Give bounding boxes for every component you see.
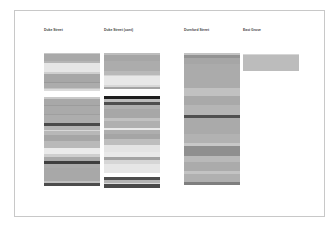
stripe-block (44, 53, 100, 91)
stripe-band (104, 121, 160, 128)
stripe-band (44, 168, 100, 181)
stripe-block (104, 53, 160, 89)
stripe-band (44, 54, 100, 61)
stripe-band (44, 183, 100, 186)
stripe-band (184, 162, 240, 171)
stripe-band (184, 182, 240, 185)
stripe-band (44, 141, 100, 148)
stripe-block (104, 177, 160, 188)
column-heading: Duke Street (44, 28, 63, 32)
stripe-band (184, 88, 240, 96)
stripe-band (104, 76, 160, 85)
stripe-band (104, 109, 160, 118)
stripe-band (104, 145, 160, 152)
stripe-block (184, 53, 240, 185)
stripe-band (44, 74, 100, 82)
stripe-band (184, 174, 240, 182)
stripe-band (184, 64, 240, 88)
stripe-band (44, 63, 100, 72)
column-heading: East Grove (243, 28, 261, 32)
stripe-band (184, 134, 240, 143)
stripe-band (184, 118, 240, 134)
stripe-band (104, 184, 160, 188)
stripe-band (104, 164, 160, 173)
stripe-band (184, 146, 240, 156)
stripe-band (184, 96, 240, 105)
stripe-band (243, 55, 299, 71)
stripe-band (44, 115, 100, 123)
column-heading: Duke Street (cont) (104, 28, 133, 32)
stripe-band (44, 106, 100, 114)
stripe-block (104, 96, 160, 173)
stripe-band (104, 61, 160, 71)
stripe-band (104, 87, 160, 89)
stripe-block (243, 54, 299, 71)
stripe-band (184, 105, 240, 115)
stripe-band (44, 89, 100, 91)
stripe-block (44, 97, 100, 186)
column-heading: Durnford Street (184, 28, 209, 32)
